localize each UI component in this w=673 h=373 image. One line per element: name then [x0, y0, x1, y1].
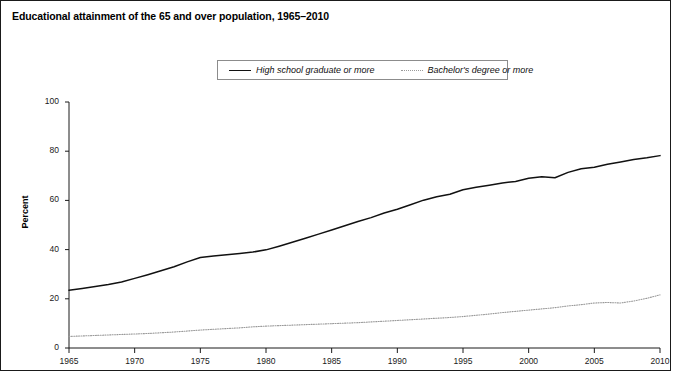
chart-figure: Educational attainment of the 65 and ove…	[0, 0, 671, 371]
x-axis-tick-label: 1990	[377, 356, 417, 366]
y-axis-tick-label: 40	[33, 244, 59, 254]
plot-svg	[1, 1, 672, 372]
x-axis-tick-label: 1975	[180, 356, 220, 366]
series-line-bachelors	[69, 295, 660, 337]
y-axis-tick-label: 0	[33, 342, 59, 352]
x-axis-tick-label: 1985	[312, 356, 352, 366]
x-axis-tick-label: 2005	[574, 356, 614, 366]
y-axis-tick-label: 60	[33, 194, 59, 204]
y-axis-tick-label: 20	[33, 293, 59, 303]
x-axis-tick-label: 1980	[246, 356, 286, 366]
x-axis-tick-label: 1995	[443, 356, 483, 366]
y-axis-tick-label: 100	[33, 96, 59, 106]
y-axis-tick-label: 80	[33, 145, 59, 155]
x-axis-tick-label: 1965	[49, 356, 89, 366]
x-axis-tick-label: 2010	[640, 356, 673, 366]
x-axis-tick-label: 1970	[115, 356, 155, 366]
series-line-high-school	[69, 156, 660, 291]
plot-area	[1, 1, 672, 372]
x-axis-tick-label: 2000	[509, 356, 549, 366]
